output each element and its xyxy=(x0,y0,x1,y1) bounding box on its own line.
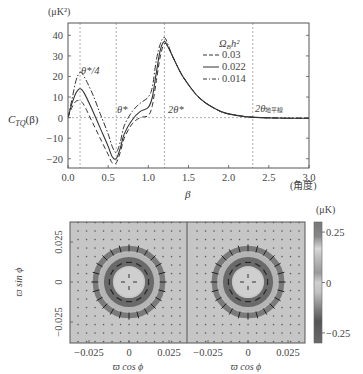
vector-dot xyxy=(94,307,95,308)
vector-dot xyxy=(230,239,231,240)
vector-dot xyxy=(222,247,223,248)
vector-dot xyxy=(281,315,282,316)
vector-dot xyxy=(111,230,112,231)
vector-dot xyxy=(77,290,78,291)
x-axis-label: β xyxy=(184,188,191,200)
colorbar-ticks: 0.250−0.25 xyxy=(322,227,350,339)
vector-dot xyxy=(145,230,146,231)
vector-dot xyxy=(179,290,180,291)
vector-dot xyxy=(77,264,78,265)
vector-dot xyxy=(298,290,299,291)
vector-dot xyxy=(273,324,274,325)
vector-dot xyxy=(205,239,206,240)
vector-dot xyxy=(162,324,163,325)
vector-dot xyxy=(162,307,163,308)
vector-dot xyxy=(196,273,197,274)
vector-dot xyxy=(290,332,291,333)
vector-dot xyxy=(179,298,180,299)
annotation-theta: θ* xyxy=(117,104,128,115)
annotation-theta-quarter: θ*/4 xyxy=(81,65,100,76)
vector-dot xyxy=(222,239,223,240)
vector-dot xyxy=(179,264,180,265)
vector-dot xyxy=(154,230,155,231)
vector-dot xyxy=(213,332,214,333)
vector-dot xyxy=(162,256,163,257)
map-x-tick-label: −0.025 xyxy=(74,347,104,358)
vector-dot xyxy=(77,307,78,308)
map-y-tick-label: −0.025 xyxy=(53,307,64,337)
vector-dot xyxy=(137,341,138,342)
vector-dot xyxy=(171,298,172,299)
vector-dot xyxy=(239,324,240,325)
vector-dot xyxy=(94,247,95,248)
vector-dot xyxy=(120,341,121,342)
vector-dot xyxy=(94,239,95,240)
y-tick-label: 40 xyxy=(53,30,64,41)
vector-dot xyxy=(94,315,95,316)
vector-dot xyxy=(196,332,197,333)
vector-dot xyxy=(281,247,282,248)
vector-dot xyxy=(86,281,87,282)
vector-dot xyxy=(179,273,180,274)
vector-dot xyxy=(290,298,291,299)
vector-dot xyxy=(281,324,282,325)
map-left xyxy=(70,222,187,343)
vector-dot xyxy=(290,341,291,342)
vector-dot xyxy=(298,341,299,342)
vector-dot xyxy=(77,230,78,231)
vector-dot xyxy=(273,341,274,342)
vector-dot xyxy=(162,230,163,231)
y-tick-label: 30 xyxy=(53,51,64,62)
vector-dot xyxy=(86,273,87,274)
vector-dot xyxy=(86,247,87,248)
vector-dot xyxy=(162,332,163,333)
vector-dot xyxy=(77,341,78,342)
vector-dot xyxy=(196,230,197,231)
vector-dot xyxy=(205,290,206,291)
map-ylabel: ϖ sin ϕ xyxy=(13,268,24,297)
vector-dot xyxy=(205,307,206,308)
vector-dot xyxy=(77,324,78,325)
vector-dot xyxy=(239,341,240,342)
vector-dot xyxy=(162,341,163,342)
vector-dot xyxy=(154,324,155,325)
series-line-0-014 xyxy=(68,37,309,152)
vector-dot xyxy=(111,332,112,333)
vector-dot xyxy=(196,264,197,265)
vector-dot xyxy=(247,239,248,240)
vector-dot xyxy=(179,281,180,282)
vector-dot xyxy=(290,239,291,240)
vector-dot xyxy=(171,247,172,248)
vector-dot xyxy=(94,332,95,333)
vector-dot xyxy=(77,273,78,274)
vector-dot xyxy=(213,230,214,231)
vector-dot xyxy=(196,324,197,325)
vector-dot xyxy=(128,230,129,231)
vector-dot xyxy=(298,256,299,257)
vector-dot xyxy=(298,264,299,265)
vector-dot xyxy=(298,273,299,274)
vector-dot xyxy=(77,247,78,248)
vector-dot xyxy=(86,239,87,240)
y-axis-label: CTQ(β) xyxy=(8,113,39,128)
y-tick-label: −20 xyxy=(47,154,63,165)
vector-dot xyxy=(171,341,172,342)
figure: (μK²) CTQ(β) 403020100−10−20 0.00.51.01.… xyxy=(0,0,363,374)
vector-dot xyxy=(86,332,87,333)
vector-dot xyxy=(196,247,197,248)
y-tick-label: −10 xyxy=(47,133,63,144)
vector-dot xyxy=(256,324,257,325)
legend-label: 0.022 xyxy=(222,61,246,72)
vector-dot xyxy=(230,332,231,333)
vector-dot xyxy=(103,341,104,342)
vector-dot xyxy=(281,341,282,342)
vector-dot xyxy=(171,256,172,257)
vector-dot xyxy=(213,256,214,257)
vector-dot xyxy=(145,341,146,342)
y-unit-label: (μK²) xyxy=(48,6,70,18)
vector-dot xyxy=(145,324,146,325)
vector-dot xyxy=(171,324,172,325)
map-x-tick-label: 0.025 xyxy=(157,347,181,358)
vector-dot xyxy=(94,230,95,231)
vector-dot xyxy=(264,239,265,240)
